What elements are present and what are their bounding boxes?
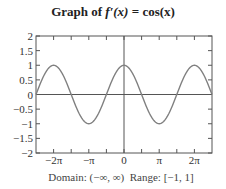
y-tick-label: −1	[21, 118, 33, 130]
y-tick-label: −1.5	[13, 132, 33, 144]
y-tick-label: −0.5	[13, 103, 33, 115]
y-tick-label: −2	[21, 147, 33, 159]
y-tick-label: 1.5	[19, 45, 33, 57]
x-tick-label: −π	[83, 154, 95, 166]
x-tick-label: 0	[121, 154, 127, 166]
x-tick-label: −2π	[45, 154, 63, 166]
range-text: Range: [−1, 1]	[130, 171, 194, 183]
y-tick-label: 1	[28, 59, 34, 71]
x-tick-label: π	[156, 154, 162, 166]
domain-range-caption: Domain: (−∞, ∞) Range: [−1, 1]	[0, 171, 226, 183]
y-tick-label: 0.5	[19, 74, 33, 86]
plot-area: −2π−π0π2π−2−1.5−1−0.500.511.52	[0, 0, 226, 189]
domain-text: Domain: (−∞, ∞)	[48, 171, 124, 183]
x-tick-label: 2π	[189, 154, 201, 166]
y-tick-label: 0	[28, 89, 34, 101]
y-tick-label: 2	[28, 30, 34, 42]
